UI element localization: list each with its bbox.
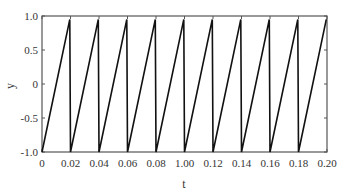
y-tick-label: -1.0 [21,146,39,158]
x-axis-ticks: 00.020.040.060.081.000.120.140.160.180.2… [39,16,337,169]
x-tick-label: 0.18 [289,157,309,169]
x-axis-label: t [182,177,186,191]
x-tick-label: 0.16 [260,157,280,169]
x-tick-label: 0 [39,157,45,169]
sawtooth-line [42,19,326,152]
x-tick-label: 1.00 [175,157,195,169]
x-tick-label: 0.14 [232,157,252,169]
sawtooth-chart: -1.0-0.500.51.0 00.020.040.060.081.000.1… [0,0,348,194]
x-tick-label: 0.06 [118,157,138,169]
y-axis-label: y [3,83,17,89]
x-tick-label: 0.08 [146,157,166,169]
y-tick-label: -0.5 [21,112,39,124]
y-tick-label: 0 [33,78,39,90]
y-tick-label: 1.0 [24,10,38,22]
x-tick-label: 0.04 [89,157,109,169]
x-tick-label: 0.12 [203,157,222,169]
y-tick-label: 0.5 [24,44,38,56]
x-tick-label: 0.02 [61,157,80,169]
x-tick-label: 0.20 [317,157,337,169]
